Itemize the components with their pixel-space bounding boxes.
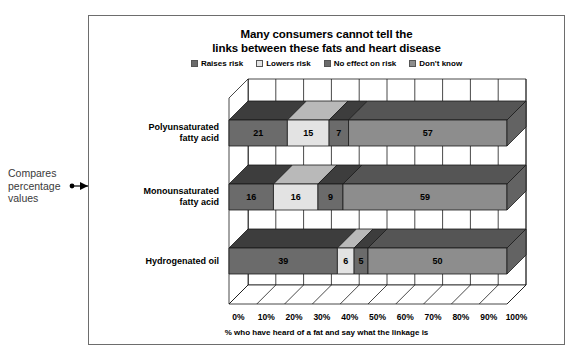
bar-row-1: 1616959	[229, 165, 526, 210]
category-label-line-0-1: fatty acid	[94, 133, 219, 144]
x-tick-label-6: 60%	[390, 312, 420, 322]
x-tick-label-8: 80%	[446, 312, 476, 322]
x-tick-label-4: 40%	[335, 312, 365, 322]
bar-top-face-0-3	[349, 101, 526, 120]
category-label-line-2-0: Hydrogenated oil	[94, 256, 219, 267]
x-tick-label-3: 30%	[307, 312, 337, 322]
bar-value-1-3: 59	[420, 192, 430, 202]
category-label-2: Hydrogenated oil	[94, 256, 219, 267]
bar-top-face-2-0	[229, 229, 356, 248]
bar-row-0: 2115757	[229, 101, 526, 146]
x-tick-label-1: 10%	[251, 312, 281, 322]
chart-svg: 21157571616959396550	[89, 16, 566, 346]
bar-top-face-2-3	[368, 229, 526, 248]
x-tick-label-7: 70%	[418, 312, 448, 322]
bar-value-0-2: 7	[336, 128, 341, 138]
axis-caption: % who have heard of a fat and say what t…	[89, 328, 564, 337]
category-label-1: Monounsaturatedfatty acid	[94, 186, 219, 208]
bar-row-2: 396550	[229, 229, 526, 274]
bar-value-2-3: 50	[432, 256, 442, 266]
bar-value-2-1: 6	[343, 256, 348, 266]
bar-value-1-2: 9	[328, 192, 333, 202]
bar-value-2-2: 5	[359, 256, 364, 266]
category-label-0: Polyunsaturatedfatty acid	[94, 122, 219, 144]
bar-value-1-0: 16	[246, 192, 256, 202]
bar-value-1-1: 16	[291, 192, 301, 202]
annotation-text: Compares percentage values	[8, 167, 86, 205]
x-tick-label-0: 0%	[224, 312, 254, 322]
category-label-line-1-1: fatty acid	[94, 197, 219, 208]
bar-value-2-0: 39	[278, 256, 288, 266]
category-label-line-0-0: Polyunsaturated	[94, 122, 219, 133]
x-tick-label-9: 90%	[474, 312, 504, 322]
bar-value-0-0: 21	[253, 128, 263, 138]
chart-frame: Many consumers cannot tell the links bet…	[88, 15, 565, 345]
bar-value-0-1: 15	[303, 128, 313, 138]
x-tick-label-5: 50%	[363, 312, 393, 322]
bar-top-face-1-3	[343, 165, 526, 184]
x-tick-label-2: 20%	[279, 312, 309, 322]
chart-plot-area: 21157571616959396550	[89, 16, 564, 344]
bar-value-0-3: 57	[423, 128, 433, 138]
category-label-line-1-0: Monounsaturated	[94, 186, 219, 197]
x-tick-label-10: 100%	[502, 312, 532, 322]
